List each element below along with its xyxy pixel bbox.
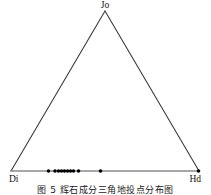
triangle-edge-left (11, 11, 105, 171)
vertex-label-di: Di (9, 174, 19, 184)
vertex-label-hd: Hd (189, 174, 201, 184)
data-point (77, 169, 81, 173)
data-point (53, 169, 57, 173)
data-point (99, 169, 103, 173)
figure-caption: 图 5 辉石成分三角地投点分布图 (0, 185, 211, 195)
data-point (197, 169, 201, 173)
ternary-plot: Jo Di Hd (0, 0, 211, 195)
ternary-diagram-figure: Jo Di Hd 图 5 辉石成分三角地投点分布图 (0, 0, 211, 195)
triangle-edge-right (105, 11, 199, 171)
data-point (72, 169, 76, 173)
data-point (47, 169, 51, 173)
vertex-label-jo: Jo (101, 0, 110, 10)
